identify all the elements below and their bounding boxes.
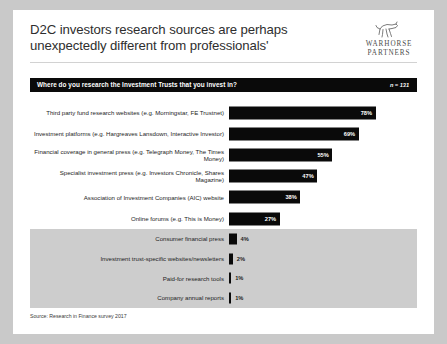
category-label: Company annual reports bbox=[30, 294, 229, 301]
chart-row: Third party fund research websites (e.g.… bbox=[30, 102, 417, 123]
chart-row: Paid-for research tools1% bbox=[30, 269, 417, 289]
slide: D2C investors research sources are perha… bbox=[13, 10, 434, 334]
bar-track: 47% bbox=[229, 166, 417, 187]
bar bbox=[229, 106, 376, 119]
bar-track: 2% bbox=[229, 249, 417, 269]
bar-value-label: 38% bbox=[285, 194, 296, 200]
sample-size-label: n = 131 bbox=[390, 82, 409, 88]
bar-track: 27% bbox=[229, 208, 417, 229]
bar bbox=[229, 234, 237, 245]
category-label: Association of Investment Companies (AIC… bbox=[30, 194, 229, 201]
question-text: Where do you research the Investment Tru… bbox=[37, 81, 237, 88]
slide-header: D2C investors research sources are perha… bbox=[13, 10, 434, 66]
bar-track: 78% bbox=[229, 102, 417, 123]
bar-value-label: 78% bbox=[361, 110, 372, 116]
bar-value-label: 47% bbox=[302, 173, 313, 179]
category-label: Online forums (e.g. This is Money) bbox=[30, 215, 229, 222]
page-title: D2C investors research sources are perha… bbox=[30, 22, 350, 53]
bar-value-label: 27% bbox=[265, 216, 276, 222]
chart-row: Investment trust-specific websites/newsl… bbox=[30, 249, 417, 269]
logo-line-1: WARHORSE bbox=[358, 40, 420, 49]
category-label: Investment platforms (e.g. Hargreaves La… bbox=[30, 130, 229, 137]
bar bbox=[229, 127, 359, 140]
warhorse-partners-logo: WARHORSE PARTNERS bbox=[358, 21, 420, 57]
bar-value-label: 1% bbox=[235, 295, 243, 301]
bar-value-label: 1% bbox=[235, 275, 243, 281]
bar-track: 1% bbox=[229, 269, 417, 289]
logo-line-2: PARTNERS bbox=[358, 49, 420, 58]
chart-rows: Third party fund research websites (e.g.… bbox=[30, 102, 417, 308]
header-divider bbox=[30, 62, 417, 63]
chart-row: Association of Investment Companies (AIC… bbox=[30, 187, 417, 208]
category-label: Investment trust-specific websites/newsl… bbox=[30, 255, 229, 262]
chart-row: Company annual reports1% bbox=[30, 288, 417, 308]
chart-row: Financial coverage in general press (e.g… bbox=[30, 144, 417, 165]
bar bbox=[229, 273, 231, 284]
source-note: Source: Research in Finance survey 2017 bbox=[30, 313, 127, 319]
bar-track: 69% bbox=[229, 123, 417, 144]
bar-track: 55% bbox=[229, 144, 417, 165]
category-label: Financial coverage in general press (e.g… bbox=[30, 148, 229, 163]
chart-row: Online forums (e.g. This is Money)27% bbox=[30, 208, 417, 229]
bar-track: 1% bbox=[229, 288, 417, 308]
category-label: Paid-for research tools bbox=[30, 275, 229, 282]
bar bbox=[229, 293, 231, 304]
question-bar: Where do you research the Investment Tru… bbox=[30, 78, 417, 92]
bar-value-label: 2% bbox=[237, 256, 245, 262]
bar-chart: Third party fund research websites (e.g.… bbox=[30, 102, 417, 308]
chart-row: Consumer financial press4% bbox=[30, 229, 417, 249]
category-label: Specialist investment press (e.g. Invest… bbox=[30, 169, 229, 184]
bar-value-label: 4% bbox=[241, 236, 249, 242]
bar-track: 38% bbox=[229, 187, 417, 208]
chart-row: Investment platforms (e.g. Hargreaves La… bbox=[30, 123, 417, 144]
horse-icon bbox=[374, 21, 404, 39]
bar bbox=[229, 253, 233, 264]
chart-row: Specialist investment press (e.g. Invest… bbox=[30, 166, 417, 187]
bar-value-label: 55% bbox=[317, 152, 328, 158]
bar-track: 4% bbox=[229, 229, 417, 249]
category-label: Consumer financial press bbox=[30, 235, 229, 242]
category-label: Third party fund research websites (e.g.… bbox=[30, 109, 229, 116]
bar-value-label: 69% bbox=[344, 131, 355, 137]
